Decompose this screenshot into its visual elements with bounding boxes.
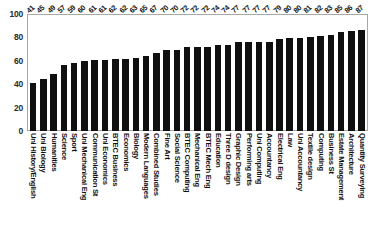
bar[interactable]: 82 (317, 36, 324, 131)
x-label-slot: BTEC Mech Eng (203, 132, 213, 248)
x-axis-tick-label: Textile design (307, 133, 315, 180)
bar[interactable]: 80 (297, 38, 304, 131)
x-axis-tick-label: Sport (70, 133, 78, 152)
bar-chart: 100806040200 414549575960616162626365677… (0, 0, 371, 250)
bar-slot: 77 (244, 15, 254, 131)
x-axis-tick-label: Quantity Surveying (358, 133, 366, 198)
x-axis-tick-label: Economics (122, 133, 130, 171)
bar-slot: 41 (28, 15, 38, 131)
x-label-slot: Combined Studies (151, 132, 161, 248)
bar-slot: 81 (305, 15, 315, 131)
bar-value-label: 77 (261, 3, 273, 15)
x-label-slot: Sport (69, 132, 79, 248)
bar-slot: 83 (326, 15, 336, 131)
bar-slot: 57 (59, 15, 69, 131)
bar[interactable]: 87 (358, 30, 365, 131)
y-axis-tick-label: 40 (14, 79, 23, 89)
bar-slot: 63 (131, 15, 141, 131)
x-label-slot: Education (213, 132, 223, 248)
bar[interactable]: 57 (61, 65, 68, 131)
bar-slot: 61 (100, 15, 110, 131)
x-label-slot: Uni Economics (100, 132, 110, 248)
x-axis-tick-label: Electrical Eng (276, 133, 284, 180)
bar[interactable]: 81 (307, 37, 314, 131)
bar-slot: 77 (254, 15, 264, 131)
x-axis-tick-label: Architecture (348, 133, 356, 175)
x-label-slot: Mechanical Eng (192, 132, 202, 248)
y-axis-tick-label: 20 (14, 103, 23, 113)
x-axis-tick-label: Three D design (224, 133, 232, 184)
x-axis-tick-label: Modern Languages (142, 133, 150, 199)
x-label-slot: Social Science (172, 132, 182, 248)
bar-slot: 70 (172, 15, 182, 131)
y-axis-tick-label: 100 (9, 9, 23, 19)
x-label-slot: Accountancy (264, 132, 274, 248)
bar[interactable]: 61 (102, 60, 109, 131)
x-label-slot: Graphic Design (233, 132, 243, 248)
bar[interactable]: 72 (184, 47, 191, 131)
bar-slot: 62 (120, 15, 130, 131)
bar[interactable]: 59 (71, 63, 78, 131)
bar[interactable]: 86 (348, 31, 355, 131)
x-axis-tick-label: BTEC Mech Eng (204, 133, 212, 188)
x-label-slot: Electrical Eng (274, 132, 284, 248)
bar[interactable]: 74 (215, 45, 222, 131)
bar[interactable]: 77 (245, 42, 252, 131)
x-label-slot: Biology (131, 132, 141, 248)
bar[interactable]: 62 (122, 59, 129, 131)
x-label-slot: Science (59, 132, 69, 248)
x-axis-tick-label: Performing arts (245, 133, 253, 186)
x-axis-tick-label: Law (286, 133, 294, 147)
x-axis-tick-label: Uni History/English (29, 133, 37, 198)
bar[interactable]: 83 (328, 35, 335, 131)
x-label-slot: Humanities (49, 132, 59, 248)
x-axis-tick-label: BTEC Computing (183, 133, 191, 192)
bar[interactable]: 65 (143, 56, 150, 131)
bar[interactable]: 80 (286, 38, 293, 131)
x-axis-labels: Uni History/EnglishUni BiologyHumanities… (28, 132, 367, 248)
bar[interactable]: 72 (204, 47, 211, 131)
bar[interactable]: 70 (163, 50, 170, 131)
y-axis-tick-label: 80 (14, 32, 23, 42)
bar-value-label: 87 (353, 3, 365, 15)
bar[interactable]: 85 (338, 32, 345, 131)
bar[interactable]: 49 (50, 74, 57, 131)
bar-value-label: 81 (302, 3, 314, 15)
bar[interactable]: 77 (235, 42, 242, 131)
bar[interactable]: 67 (153, 53, 160, 131)
x-label-slot: Performing arts (244, 132, 254, 248)
bar-slot: 74 (213, 15, 223, 131)
x-axis-tick-label: Uni Biology (40, 133, 48, 172)
x-axis-tick-label: Combined Studies (153, 133, 161, 196)
y-axis-tick-label: 0 (18, 126, 23, 136)
bar[interactable]: 77 (266, 42, 273, 131)
bar[interactable]: 72 (194, 47, 201, 131)
bar-slot: 61 (90, 15, 100, 131)
x-label-slot: Uni Mechanical Eng (79, 132, 89, 248)
bar[interactable]: 70 (174, 50, 181, 131)
x-axis-tick-label: Accountancy (265, 133, 273, 178)
x-label-slot: BTEC Business (110, 132, 120, 248)
bar-slot: 60 (79, 15, 89, 131)
bar-slot: 62 (110, 15, 120, 131)
bar[interactable]: 60 (81, 61, 88, 131)
x-axis-tick-label: Uni Mechanical Eng (81, 133, 89, 200)
x-axis-tick-label: BTEC Business (111, 133, 119, 186)
x-label-slot: Uni Computing (254, 132, 264, 248)
bar-slot: 82 (315, 15, 325, 131)
bar[interactable]: 77 (256, 42, 263, 131)
x-label-slot: Communication St (90, 132, 100, 248)
bar[interactable]: 79 (276, 39, 283, 131)
bar[interactable]: 45 (40, 79, 47, 131)
x-axis-tick-label: Computing (317, 133, 325, 171)
x-label-slot: Modern Languages (141, 132, 151, 248)
bar-value-label: 62 (107, 3, 119, 15)
x-axis-tick-label: Graphic Design (235, 133, 243, 186)
bar[interactable]: 61 (91, 60, 98, 131)
bar[interactable]: 63 (133, 58, 140, 131)
bar[interactable]: 41 (30, 83, 37, 131)
bar-slot: 65 (141, 15, 151, 131)
x-label-slot: BTEC Computing (182, 132, 192, 248)
bar[interactable]: 62 (112, 59, 119, 131)
bar[interactable]: 74 (225, 45, 232, 131)
